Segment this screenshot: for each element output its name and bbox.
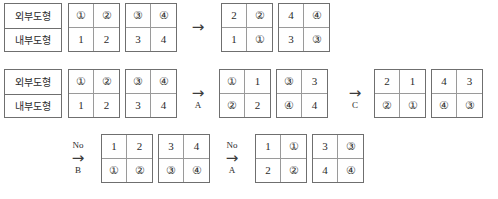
grid-cell: ③ xyxy=(457,94,482,118)
grid-cell: ④ xyxy=(277,94,302,118)
grid-cell: 4 xyxy=(313,159,338,183)
arrow-right-icon: → xyxy=(349,87,362,101)
arrow-right-icon: → xyxy=(192,21,205,35)
arrow-sublabel: C xyxy=(352,101,358,112)
grid-cell: 3 xyxy=(159,135,184,159)
grid-cell: ④ xyxy=(151,4,176,28)
grid-cell: 3 xyxy=(279,28,304,52)
shape-grid: 4④3③ xyxy=(278,3,330,52)
grid-cell: 4 xyxy=(432,70,457,94)
arrow-right-icon: → xyxy=(72,152,85,166)
grid-cell: 2 xyxy=(245,94,270,118)
grid-cell: ② xyxy=(375,94,400,118)
grid-cell: ① xyxy=(281,135,306,159)
grid-cell: ① xyxy=(102,159,127,183)
grid-cell: 2 xyxy=(375,70,400,94)
shape-legend-box: 외부도형내부도형 xyxy=(4,69,62,118)
grid-cell: 2 xyxy=(222,4,247,28)
arrow-right-icon: → xyxy=(192,87,205,101)
grid-cell: ③ xyxy=(159,159,184,183)
arrow-sublabel: B xyxy=(75,166,81,177)
grid-cell: ① xyxy=(69,70,94,94)
grid-cell: 4 xyxy=(279,4,304,28)
shape-grid: ①②12 xyxy=(68,69,120,118)
grid-cell: ② xyxy=(94,70,119,94)
shape-grid: 12①② xyxy=(101,134,153,183)
diagram-canvas: 외부도형내부도형①②12③④34.→.2②1①4④3③외부도형내부도형①②12③… xyxy=(0,0,498,199)
grid-cell: ④ xyxy=(151,70,176,94)
shape-grid: 21②① xyxy=(374,69,426,118)
grid-cell: 1 xyxy=(69,28,94,52)
grid-cell: 4 xyxy=(151,28,176,52)
legend-label-outer-shape: 외부도형 xyxy=(5,4,61,28)
grid-cell: 4 xyxy=(151,94,176,118)
grid-cell: ① xyxy=(220,70,245,94)
shape-grid: ③3④4 xyxy=(276,69,328,118)
transform-arrow-group: .→C xyxy=(340,69,370,118)
shape-grid: ③④34 xyxy=(125,69,177,118)
grid-cell: 3 xyxy=(313,135,338,159)
grid-cell: ① xyxy=(69,4,94,28)
grid-cell: ③ xyxy=(304,28,329,52)
grid-cell: 1 xyxy=(69,94,94,118)
arrow-right-icon: → xyxy=(226,152,239,166)
grid-cell: 1 xyxy=(222,28,247,52)
shape-grid: 3③4④ xyxy=(312,134,364,183)
shape-grid: ①②12 xyxy=(68,3,120,52)
grid-cell: ② xyxy=(281,159,306,183)
grid-cell: ④ xyxy=(184,159,209,183)
arrow-sublabel: A xyxy=(229,166,236,177)
grid-cell: 3 xyxy=(126,94,151,118)
arrow-sublabel: A xyxy=(195,101,202,112)
shape-grid: 1①2② xyxy=(255,134,307,183)
grid-cell: ② xyxy=(127,159,152,183)
grid-cell: 2 xyxy=(127,135,152,159)
grid-cell: ③ xyxy=(126,70,151,94)
grid-cell: ④ xyxy=(304,4,329,28)
grid-cell: 3 xyxy=(457,70,482,94)
shape-grid: ①1②2 xyxy=(219,69,271,118)
grid-cell: ② xyxy=(94,4,119,28)
grid-cell: 2 xyxy=(94,28,119,52)
grid-cell: ③ xyxy=(126,4,151,28)
grid-cell: ④ xyxy=(432,94,457,118)
transform-arrow-group: .→. xyxy=(183,3,213,52)
grid-cell: ① xyxy=(400,94,425,118)
grid-cell: 2 xyxy=(94,94,119,118)
grid-cell: 1 xyxy=(245,70,270,94)
grid-cell: ③ xyxy=(338,135,363,159)
grid-cell: 3 xyxy=(126,28,151,52)
grid-cell: ④ xyxy=(338,159,363,183)
transform-arrow-group: No→A xyxy=(217,134,247,183)
shape-grid: ③④34 xyxy=(125,3,177,52)
transform-arrow-group: No→B xyxy=(63,134,93,183)
transform-arrow-group: .→A xyxy=(183,69,213,118)
shape-grid: 2②1① xyxy=(221,3,273,52)
grid-cell: ② xyxy=(247,4,272,28)
shape-legend-box: 외부도형내부도형 xyxy=(4,3,62,52)
legend-label-inner-shape: 내부도형 xyxy=(5,28,61,52)
grid-cell: 2 xyxy=(256,159,281,183)
grid-cell: 3 xyxy=(302,70,327,94)
grid-cell: 4 xyxy=(302,94,327,118)
shape-grid: 34③④ xyxy=(158,134,210,183)
grid-cell: 4 xyxy=(184,135,209,159)
legend-label-outer-shape: 외부도형 xyxy=(5,70,61,94)
grid-cell: 1 xyxy=(256,135,281,159)
grid-cell: 1 xyxy=(400,70,425,94)
shape-grid: 43④③ xyxy=(431,69,483,118)
legend-label-inner-shape: 내부도형 xyxy=(5,94,61,118)
grid-cell: ③ xyxy=(277,70,302,94)
grid-cell: ② xyxy=(220,94,245,118)
grid-cell: 1 xyxy=(102,135,127,159)
grid-cell: ① xyxy=(247,28,272,52)
